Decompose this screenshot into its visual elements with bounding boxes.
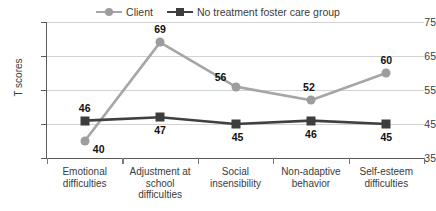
x-category-label-1: Adjustment at school difficulties — [122, 166, 197, 201]
x-category-label-0: Emotional difficulties — [47, 166, 122, 189]
client-data-label-1: 69 — [154, 23, 166, 35]
client-data-label-3: 52 — [303, 81, 315, 93]
foster-care-point-4[interactable] — [382, 120, 391, 129]
foster-care-data-label-1: 47 — [154, 124, 166, 136]
client-data-label-0: 40 — [93, 143, 105, 155]
line-chart: Client No treatment foster care group T … — [0, 0, 436, 211]
x-category-label-3: Non-adaptive behavior — [273, 166, 348, 189]
foster-care-data-label-4: 45 — [380, 131, 392, 143]
x-category-label-3-line-1: behavior — [273, 178, 348, 190]
client-point-1[interactable] — [156, 38, 165, 47]
foster-care-data-label-2: 45 — [232, 131, 244, 143]
x-category-label-4: Self-esteem difficulties — [349, 166, 424, 189]
x-category-label-2-line-1: insensibility — [198, 178, 273, 190]
x-category-label-0-line-0: Emotional — [47, 166, 122, 178]
foster-care-point-2[interactable] — [231, 120, 240, 129]
x-category-label-0-line-1: difficulties — [47, 178, 122, 190]
x-category-label-3-line-0: Non-adaptive — [273, 166, 348, 178]
x-category-label-2-line-0: Social — [198, 166, 273, 178]
foster-care-point-1[interactable] — [156, 113, 165, 122]
client-data-label-4: 60 — [380, 54, 392, 66]
client-point-4[interactable] — [382, 69, 391, 78]
x-category-label-4-line-0: Self-esteem — [349, 166, 424, 178]
foster-care-point-0[interactable] — [80, 116, 89, 125]
foster-care-data-label-0: 46 — [79, 102, 91, 114]
foster-care-point-3[interactable] — [306, 116, 315, 125]
x-category-label-1-line-1: school — [122, 178, 197, 190]
client-point-0[interactable] — [80, 137, 89, 146]
x-category-label-1-line-2: difficulties — [122, 189, 197, 201]
x-category-label-4-line-1: difficulties — [349, 178, 424, 190]
x-category-label-1-line-0: Adjustment at — [122, 166, 197, 178]
client-point-3[interactable] — [306, 96, 315, 105]
client-point-2[interactable] — [231, 82, 240, 91]
x-category-label-2: Social insensibility — [198, 166, 273, 189]
foster-care-data-label-3: 46 — [305, 128, 317, 140]
client-data-label-2: 56 — [215, 71, 227, 83]
